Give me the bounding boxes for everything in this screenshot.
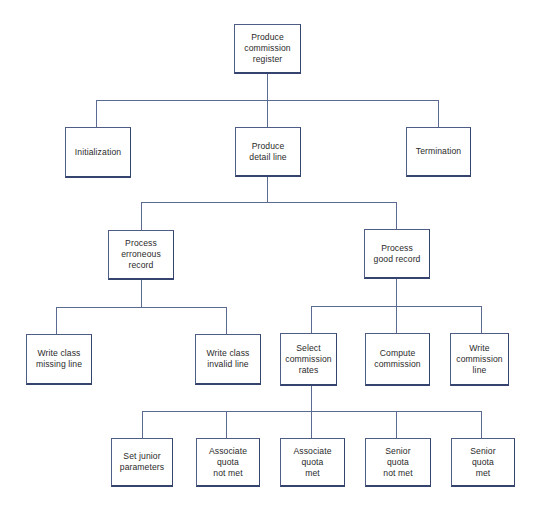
- node-produce-detail-line: Produce detail line: [235, 127, 301, 177]
- node-label: Initialization: [75, 147, 121, 158]
- connector: [267, 176, 268, 203]
- node-associate-quota-met: Associate quota met: [280, 438, 345, 487]
- node-termination: Termination: [406, 127, 471, 177]
- connector: [311, 411, 312, 438]
- connector: [396, 306, 397, 333]
- connector: [56, 307, 227, 308]
- node-set-junior-parameters: Set junior parameters: [111, 438, 173, 487]
- node-label: Process erroneous record: [121, 238, 161, 271]
- node-write-commission-line: Write commission line: [450, 333, 509, 386]
- connector: [226, 307, 227, 334]
- connector: [141, 202, 397, 203]
- node-label: Write class missing line: [36, 348, 82, 370]
- connector: [438, 100, 439, 127]
- node-associate-quota-not-met: Associate quota not met: [196, 438, 260, 487]
- hierarchy-diagram: Produce commission register Initializati…: [0, 0, 536, 514]
- connector: [141, 202, 142, 230]
- node-label: Compute commission: [374, 348, 420, 370]
- connector: [311, 306, 312, 333]
- connector: [396, 411, 397, 438]
- connector: [267, 73, 268, 101]
- connector: [481, 306, 482, 333]
- node-label: Associate quota not met: [209, 446, 247, 479]
- node-label: Produce detail line: [249, 141, 286, 163]
- connector: [141, 279, 142, 307]
- node-write-class-invalid-line: Write class invalid line: [195, 334, 261, 385]
- node-label: Process good record: [374, 243, 421, 265]
- connector: [142, 411, 143, 438]
- node-initialization: Initialization: [65, 127, 131, 178]
- connector: [481, 411, 482, 438]
- node-compute-commission: Compute commission: [365, 333, 430, 386]
- connector: [226, 411, 227, 438]
- node-label: Associate quota met: [293, 446, 331, 479]
- connector: [267, 100, 268, 127]
- node-select-commission-rates: Select commission rates: [280, 333, 337, 386]
- node-label: Senior quota met: [470, 446, 495, 479]
- node-label: Produce commission register: [244, 32, 290, 65]
- node-produce-commission-register: Produce commission register: [234, 24, 301, 74]
- node-senior-quota-not-met: Senior quota not met: [365, 438, 431, 487]
- connector: [142, 411, 482, 412]
- connector: [396, 278, 397, 307]
- node-process-erroneous-record: Process erroneous record: [108, 230, 174, 280]
- node-label: Write commission line: [456, 343, 502, 376]
- node-label: Senior quota not met: [383, 446, 412, 479]
- node-write-class-missing-line: Write class missing line: [26, 334, 92, 385]
- node-label: Select commission rates: [285, 343, 331, 376]
- node-process-good-record: Process good record: [364, 229, 430, 279]
- node-senior-quota-met: Senior quota met: [451, 438, 515, 487]
- node-label: Set junior parameters: [120, 451, 164, 473]
- connector: [96, 100, 97, 127]
- connector: [56, 307, 57, 334]
- node-label: Write class invalid line: [207, 348, 250, 370]
- node-label: Termination: [416, 146, 462, 157]
- connector: [311, 385, 312, 412]
- connector: [396, 202, 397, 229]
